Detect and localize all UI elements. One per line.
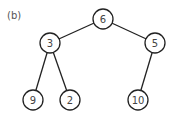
node-value: 3 — [47, 38, 53, 49]
node-value: 9 — [30, 95, 36, 106]
node-value: 5 — [152, 38, 158, 49]
edges — [33, 19, 155, 100]
tree-node-root: 6 — [93, 9, 113, 29]
tree-diagram: 6 3 5 9 2 10 — [0, 0, 180, 115]
tree-node-left-left: 9 — [23, 90, 43, 110]
tree-node-left-right: 2 — [60, 90, 80, 110]
tree-node-left: 3 — [40, 33, 60, 53]
tree-node-right-left: 10 — [128, 90, 148, 110]
node-value: 10 — [132, 95, 145, 106]
node-value: 2 — [67, 95, 73, 106]
node-value: 6 — [100, 14, 106, 25]
tree-node-right: 5 — [145, 33, 165, 53]
